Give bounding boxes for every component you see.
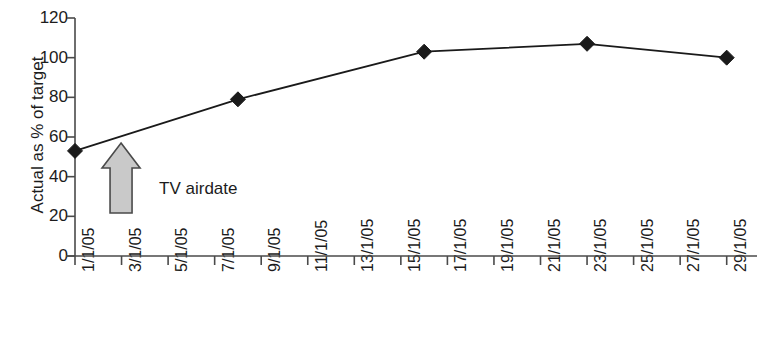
tv-airdate-label: TV airdate: [159, 180, 237, 197]
data-point-marker: [230, 92, 245, 107]
series-line: [75, 44, 727, 151]
data-point-marker: [719, 50, 734, 65]
tv-airdate-arrow-icon: [102, 143, 140, 213]
chart-container: Actual as % of target 020406080100120 1/…: [0, 0, 760, 353]
data-point-marker: [580, 36, 595, 51]
data-point-marker: [68, 143, 83, 158]
data-series-group: [68, 36, 735, 158]
plot-area: [0, 0, 760, 353]
annotation-arrow-group: [102, 143, 140, 213]
data-point-marker: [417, 44, 432, 59]
